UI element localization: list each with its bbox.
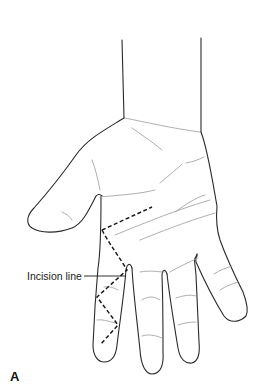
thenar-crease-1 [132,128,162,150]
thumb-outline [28,118,124,232]
thenar-crease-2 [92,160,100,190]
hand-illustration [0,0,269,389]
ring-crease-2 [178,322,196,325]
middle-crease-2 [142,335,162,338]
middle-finger-outline [132,268,167,374]
thumb-crease [62,212,72,220]
ring-crease-1 [176,295,196,298]
palm-finger-base-crease [140,271,165,272]
skin-creases [62,118,238,338]
little-crease-2 [220,282,238,290]
palmar-crease-2 [140,213,215,240]
index-crease-2 [97,320,116,323]
little-finger-outline [196,132,247,321]
incision-line-label: Incision line [27,271,82,282]
proximal-palmar-crease [100,190,155,197]
panel-label: A [10,370,19,383]
hand-outline [28,38,248,374]
palmar-crease-3 [175,195,205,212]
wrist-crease [125,118,200,132]
middle-crease-1 [142,297,160,300]
ring-base-crease [170,258,198,272]
ring-finger-outline [167,256,199,363]
hypothenar-crease [186,157,204,163]
index-finger-outline [93,196,132,362]
little-crease-1 [214,266,232,274]
palmar-incision-segment [102,207,152,230]
palm-crease-mid [160,164,182,183]
forearm-left-edge [122,40,124,118]
